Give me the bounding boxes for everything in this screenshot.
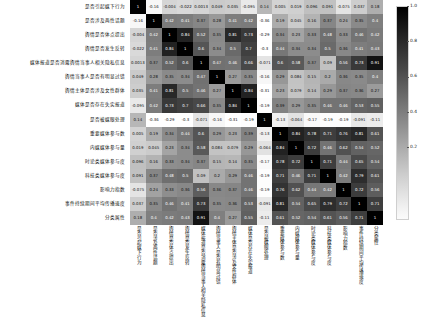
- x-axis-tick-labels: 是否引起媒下行为是否涉及两性话题舆情是否体点提出舆情是否发生反转媒体报道是否消露…: [130, 226, 383, 330]
- heatmap-cell: 0.48: [162, 169, 178, 183]
- y-axis-tick-label: 舆情是否发生反转: [85, 42, 125, 56]
- heatmap-cell-value: 0.44: [339, 160, 348, 164]
- heatmap-cell-value: -0.075: [132, 188, 145, 192]
- heatmap-cell: -0.19: [241, 113, 257, 127]
- heatmap-cell-value: 0.71: [276, 174, 285, 178]
- heatmap-cell-value: 0.2: [325, 75, 331, 79]
- heatmap-cell-value: -0.19: [259, 188, 269, 192]
- heatmap-cell: 0.46: [225, 56, 241, 70]
- heatmap-cell-value: -0.36: [259, 19, 269, 23]
- heatmap-cell: 0.73: [241, 28, 257, 42]
- heatmap-cell-value: 0.33: [308, 33, 317, 37]
- heatmap-cell-value: 0.46: [197, 89, 206, 93]
- colorbar-tick-label: 0.8: [410, 39, 417, 43]
- heatmap-cell-value: 0.76: [339, 132, 348, 136]
- heatmap-cell: 0.36: [177, 183, 193, 197]
- heatmap-cell-value: 0.15: [213, 160, 222, 164]
- heatmap-cell: 0.23: [162, 141, 178, 155]
- heatmap-cell-value: 0.46: [339, 104, 348, 108]
- heatmap-cell: 0.79: [351, 169, 367, 183]
- heatmap-cell: -0.17: [304, 113, 320, 127]
- heatmap-cell: -0.022: [177, 0, 193, 14]
- heatmap-cell: 0.34: [162, 127, 178, 141]
- heatmap-cell-value: 0.019: [132, 146, 143, 150]
- heatmap-cell: 0.58: [193, 141, 209, 155]
- heatmap-cell-value: 0.46: [355, 33, 364, 37]
- heatmap-cell-value: 0.0013: [194, 5, 208, 9]
- heatmap-cell: 0.7: [241, 42, 257, 56]
- heatmap-cell-value: 0.81: [276, 202, 285, 206]
- heatmap-cell: 0.41: [177, 14, 193, 28]
- heatmap-cell-value: 0.42: [149, 33, 158, 37]
- heatmap-cell-value: 0.36: [228, 202, 237, 206]
- heatmap-cell-value: -0.11: [259, 216, 269, 220]
- heatmap-cell-value: 0.42: [323, 188, 332, 192]
- heatmap-cell-value: 0.005: [275, 5, 286, 9]
- heatmap-cell-value: 0.09: [197, 174, 206, 178]
- colorbar-tick-label: 1.0: [410, 4, 417, 8]
- heatmap-cell-value: 1: [232, 89, 234, 93]
- heatmap-cell-value: 0.84: [228, 104, 237, 108]
- heatmap-cell: 0.61: [367, 127, 383, 141]
- heatmap-cell: -0.19: [257, 98, 273, 112]
- heatmap-cell: 0.091: [320, 0, 336, 14]
- heatmap-cell: 0.47: [193, 70, 209, 84]
- heatmap-cell: 0.61: [320, 211, 336, 225]
- heatmap-cell-value: 0.4: [372, 19, 378, 23]
- heatmap-cell: 0.41: [146, 42, 162, 56]
- heatmap-cell-value: -0.16: [259, 75, 269, 79]
- heatmap-cell-value: 1: [168, 33, 170, 37]
- heatmap-cell-value: -0.19: [338, 118, 348, 122]
- heatmap-cell: -0.075: [336, 0, 352, 14]
- heatmap-cell-value: -0.31: [228, 118, 238, 122]
- heatmap-cell-value: 0.61: [371, 132, 380, 136]
- heatmap-cell: 0.44: [304, 183, 320, 197]
- heatmap-cell: 0.71: [304, 169, 320, 183]
- heatmap-cell-value: 0.42: [149, 104, 158, 108]
- heatmap-cell-value: 0.4: [214, 216, 220, 220]
- heatmap-cell: 0.09: [320, 56, 336, 70]
- heatmap-cell-value: 0.005: [132, 132, 143, 136]
- heatmap-cell: -0.19: [320, 113, 336, 127]
- heatmap-cell-value: 0.29: [228, 174, 237, 178]
- heatmap-cell: 0.42: [367, 28, 383, 42]
- heatmap-cell: 0.91: [193, 211, 209, 225]
- x-axis-tick-label: 舆情是否体点提出: [167, 226, 172, 264]
- heatmap-cell: 0.29: [272, 70, 288, 84]
- heatmap-cell-value: 0.41: [228, 19, 237, 23]
- heatmap-cell-value: 0.5: [182, 89, 188, 93]
- heatmap-cell: 0.34: [304, 42, 320, 56]
- heatmap-cell-value: 0.46: [323, 104, 332, 108]
- heatmap-cell-value: 0.78: [308, 132, 317, 136]
- heatmap-cell-value: -0.095: [242, 5, 255, 9]
- heatmap-cell-value: 0.73: [355, 61, 364, 65]
- heatmap-cell: 0.46: [162, 197, 178, 211]
- heatmap-cell: 0.56: [336, 211, 352, 225]
- heatmap-cell: 0.81: [162, 84, 178, 98]
- y-axis-tick-label: 是否涉及两性话题: [85, 14, 125, 28]
- heatmap-cell: 0.5: [177, 169, 193, 183]
- heatmap-cell: -0.29: [162, 113, 178, 127]
- heatmap-cell: 0.29: [241, 141, 257, 155]
- heatmap-cell: 0.72: [336, 197, 352, 211]
- heatmap-cell-value: 0.24: [339, 19, 348, 23]
- heatmap-cell-value: 0.35: [213, 104, 222, 108]
- heatmap-cell: 0.44: [336, 155, 352, 169]
- heatmap-cell: 0.39: [241, 127, 257, 141]
- heatmap-cell: 0.71: [367, 197, 383, 211]
- heatmap-cell: 0.84: [162, 42, 178, 56]
- heatmap-cell: 0.079: [288, 84, 304, 98]
- heatmap-cell-value: -0.075: [337, 5, 350, 9]
- heatmap-cell-value: 1: [295, 146, 297, 150]
- heatmap-cell: 0.43: [177, 211, 193, 225]
- heatmap-cell-value: 0.55: [371, 104, 380, 108]
- heatmap-cell: 0.46: [320, 98, 336, 112]
- heatmap-cell-value: 0.41: [355, 47, 364, 51]
- heatmap-cell: 0.48: [320, 28, 336, 42]
- heatmap-cell-value: -0.022: [179, 5, 192, 9]
- heatmap-cell: 0.16: [304, 14, 320, 28]
- heatmap-cell: 1: [257, 113, 273, 127]
- heatmap-cell-value: 0.36: [339, 47, 348, 51]
- heatmap-cell-value: -0.19: [259, 174, 269, 178]
- heatmap-cell-value: 0.84: [165, 47, 174, 51]
